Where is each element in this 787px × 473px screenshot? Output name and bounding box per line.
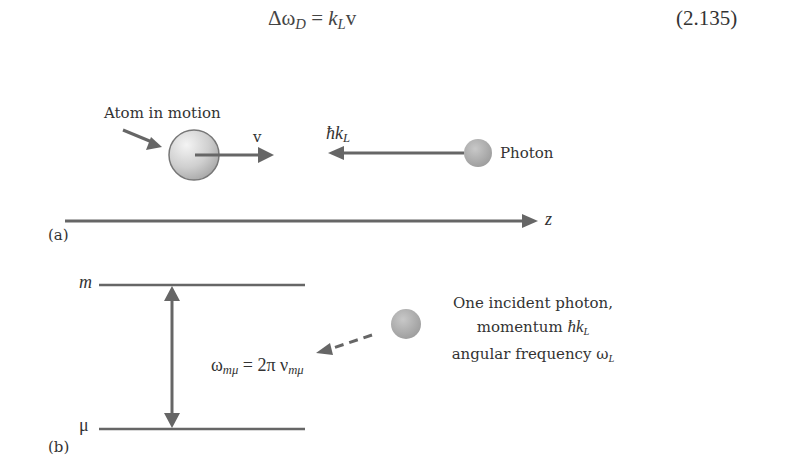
omega-symbol: ω (211, 355, 223, 375)
figure-diagram (0, 0, 787, 473)
photon-sphere (464, 139, 492, 167)
panel-b-label: (b) (48, 438, 69, 456)
equation-lhs: ΔωD (268, 6, 306, 30)
upper-level-label: m (79, 272, 92, 293)
lower-level-label: μ (79, 415, 89, 436)
z-axis-label: z (545, 209, 552, 230)
atom-in-motion-label: Atom in motion (104, 104, 221, 122)
equals-sign: = (306, 6, 328, 30)
wavevector-symbol: k (328, 6, 337, 30)
incident-photon-line-3: angular frequency ωL (428, 343, 638, 370)
incident-photon-line-2: momentum ħkL (428, 315, 638, 343)
nu-subscript: mμ (288, 363, 303, 377)
velocity-symbol: v (346, 6, 357, 30)
atom-pointer-arrow (123, 130, 162, 150)
transition-double-arrow (164, 286, 180, 428)
incident-photon-sphere (391, 309, 421, 339)
incident-photon-line-1: One incident photon, (428, 292, 638, 315)
incident-photon-description: One incident photon, momentum ħkL angula… (428, 292, 638, 369)
omega-subscript: mμ (223, 363, 238, 377)
omega-l-subscript: L (608, 352, 614, 363)
panel-a-label: (a) (48, 226, 69, 244)
z-axis-arrow (65, 214, 538, 228)
transition-frequency-equation: ωmμ = 2π νmμ (211, 355, 304, 378)
incident-photon-dashed-arrow (316, 335, 372, 355)
velocity-label: v (253, 128, 261, 146)
hbar-k-symbol: ħk (326, 123, 343, 143)
hbar-k-symbol: ħk (567, 317, 583, 336)
angular-frequency-text: angular frequency ω (452, 345, 609, 363)
photon-momentum-arrow (328, 146, 464, 160)
equation-lhs-subscript: D (295, 16, 306, 32)
photon-momentum-label: ħkL (326, 123, 350, 146)
transition-rhs: = 2π ν (238, 355, 288, 375)
equation-number: (2.135) (676, 6, 737, 31)
hbar-k-subscript: L (343, 131, 350, 145)
hbar-k-subscript: L (583, 326, 589, 337)
wavevector-subscript: L (338, 16, 346, 32)
photon-label: Photon (500, 144, 554, 162)
delta-omega-symbol: Δω (268, 6, 295, 30)
momentum-text: momentum (477, 318, 568, 336)
doppler-shift-equation: ΔωD = kLv (268, 6, 356, 33)
